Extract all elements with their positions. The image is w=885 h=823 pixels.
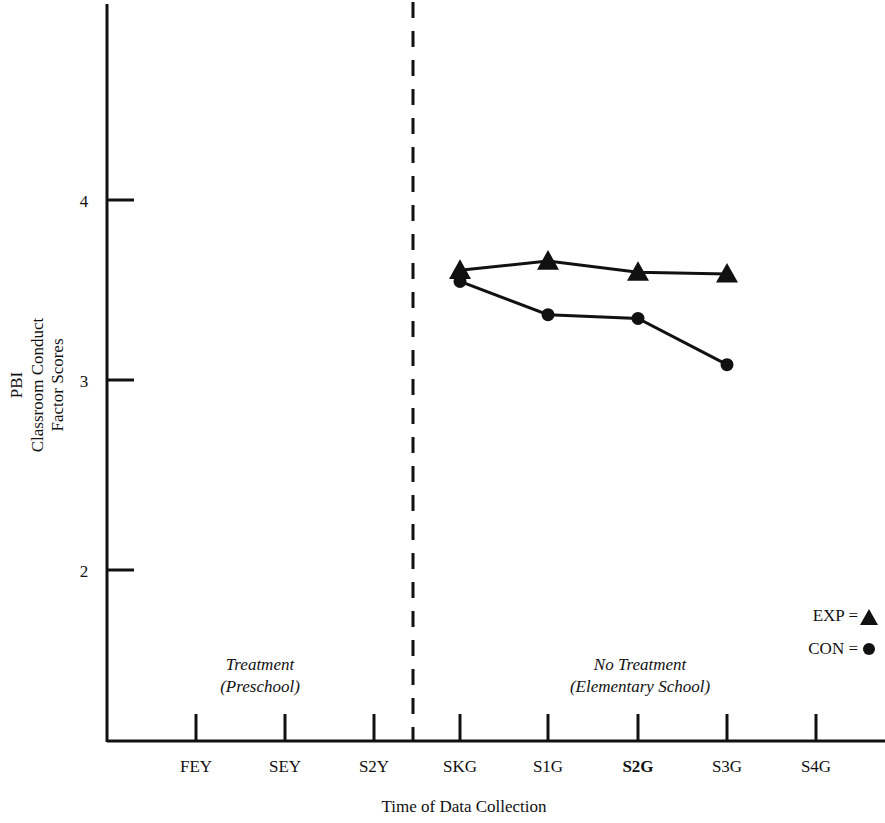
x-tick-marks <box>196 714 816 741</box>
x-tick-label-skg: SKG <box>443 757 477 776</box>
annotation-no-treatment-line-1: No Treatment <box>593 655 688 674</box>
line-chart-svg: 4 3 2 PBI Classroom Conduct Factor Score… <box>0 0 885 823</box>
y-tick-label-4: 4 <box>80 192 89 211</box>
y-axis-title-line-1: PBI <box>7 371 26 398</box>
legend-circle-icon <box>863 643 875 655</box>
x-tick-label-s4g: S4G <box>801 757 831 776</box>
annotation-treatment-line-1: Treatment <box>226 655 296 674</box>
legend-label-exp: EXP = <box>813 606 858 625</box>
x-tick-label-s3g: S3G <box>712 757 742 776</box>
series-con-markers <box>454 275 734 371</box>
series-exp-line <box>460 261 727 274</box>
x-tick-label-fey: FEY <box>180 757 212 776</box>
y-tick-marks <box>107 200 134 570</box>
legend-triangle-icon <box>860 609 878 625</box>
y-axis-title-line-2: Classroom Conduct <box>28 317 47 452</box>
x-tick-label-s2g: S2G <box>622 757 653 776</box>
x-axis-title: Time of Data Collection <box>381 797 547 816</box>
data-point-con-s3g <box>721 358 734 371</box>
annotation-treatment: Treatment (Preschool) <box>220 655 300 696</box>
chart-figure: 4 3 2 PBI Classroom Conduct Factor Score… <box>0 0 885 823</box>
legend-label-con: CON = <box>808 639 858 658</box>
legend: EXP = CON = <box>808 606 878 658</box>
annotation-no-treatment-line-2: (Elementary School) <box>570 677 711 696</box>
series-con <box>454 275 734 371</box>
data-point-con-s1g <box>542 308 555 321</box>
series-con-line <box>460 281 727 364</box>
annotation-no-treatment: No Treatment (Elementary School) <box>570 655 711 696</box>
y-tick-label-3: 3 <box>80 372 89 391</box>
y-tick-label-2: 2 <box>80 562 89 581</box>
y-axis-title-line-3: Factor Scores <box>48 338 67 431</box>
x-tick-label-s1g: S1G <box>533 757 563 776</box>
x-tick-label-s2y: S2Y <box>359 757 389 776</box>
annotation-treatment-line-2: (Preschool) <box>220 677 300 696</box>
data-point-exp-s1g <box>537 250 559 270</box>
x-tick-label-sey: SEY <box>269 757 301 776</box>
data-point-con-s2g <box>632 312 645 325</box>
y-axis-title: PBI Classroom Conduct Factor Scores <box>7 317 67 452</box>
series-exp <box>449 250 738 283</box>
